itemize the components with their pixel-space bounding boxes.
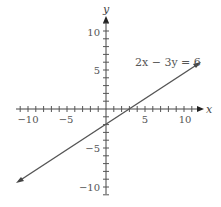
- x-axis-label: x: [206, 103, 213, 116]
- coordinate-plane: −10 −5 5 10 10 5 −5 −10 x y 2x − 3y = 6: [0, 0, 221, 207]
- x-tick-label-m5: −5: [59, 114, 74, 125]
- x-tick-label-m10: −10: [17, 114, 38, 125]
- y-axis-arrow-icon: [103, 16, 109, 23]
- x-tick-label-5: 5: [142, 114, 148, 125]
- y-tick-label-5: 5: [94, 65, 100, 76]
- equation-label: 2x − 3y = 6: [135, 56, 201, 69]
- y-tick-label-10: 10: [87, 27, 100, 38]
- y-axis-label: y: [102, 3, 110, 16]
- y-tick-label-m5: −5: [85, 143, 100, 154]
- y-tick-label-m10: −10: [79, 182, 100, 193]
- x-axis-arrow-icon: [197, 106, 204, 112]
- x-tick-label-10: 10: [179, 114, 192, 125]
